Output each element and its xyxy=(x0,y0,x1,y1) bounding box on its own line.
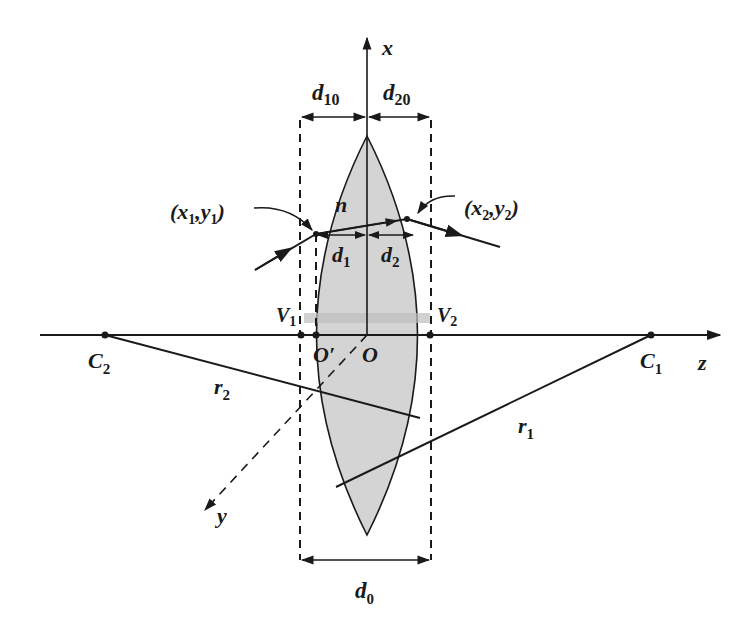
r2-label: r2 xyxy=(214,374,230,403)
v2-label: V2 xyxy=(437,304,457,329)
v1-point[interactable] xyxy=(298,332,305,339)
point1-label: (x1,y1) xyxy=(170,199,225,227)
o-prime-label: O′ xyxy=(313,342,335,367)
point2-pointer xyxy=(418,196,455,213)
x-axis-label: x xyxy=(381,35,393,60)
point2-marker[interactable] xyxy=(404,216,410,222)
c2-point[interactable] xyxy=(102,332,109,339)
c2-label: C2 xyxy=(88,348,110,377)
o-prime-point[interactable] xyxy=(313,332,320,339)
z-axis-label: z xyxy=(697,350,707,375)
point1-pointer xyxy=(254,208,312,230)
r1-label: r1 xyxy=(518,413,534,442)
n-label: n xyxy=(335,192,347,217)
d0-label: d0 xyxy=(355,578,374,607)
thick-lens-diagram: x z y d10 d20 n d1 d2 (x1,y1) (x2,y2) V1… xyxy=(0,0,747,630)
y-axis-label: y xyxy=(214,503,227,528)
c1-label: C1 xyxy=(640,348,662,377)
o-label: O xyxy=(362,342,378,367)
v1-label: V1 xyxy=(276,304,296,329)
point2-label: (x2,y2) xyxy=(464,195,519,223)
d10-label: d10 xyxy=(312,80,340,108)
point1-marker[interactable] xyxy=(313,231,319,237)
d20-label: d20 xyxy=(383,80,411,108)
v2-point[interactable] xyxy=(427,332,434,339)
incident-ray-arrow xyxy=(255,252,285,270)
c1-point[interactable] xyxy=(648,332,655,339)
